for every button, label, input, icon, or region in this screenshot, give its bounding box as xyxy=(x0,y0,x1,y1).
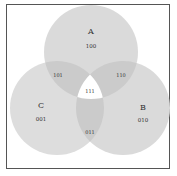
label-set-c: C xyxy=(38,101,44,110)
label-code-010: 010 xyxy=(138,117,149,123)
label-set-a: A xyxy=(87,27,94,36)
label-code-110: 110 xyxy=(116,72,126,78)
label-set-b: B xyxy=(140,103,146,112)
label-code-001: 001 xyxy=(36,116,47,122)
label-code-111: 111 xyxy=(85,88,95,94)
label-code-011: 011 xyxy=(85,129,95,135)
venn-diagram: A 100 C 001 B 010 101 110 011 111 xyxy=(0,0,177,176)
label-code-101: 101 xyxy=(53,72,63,78)
label-code-100: 100 xyxy=(86,43,97,49)
